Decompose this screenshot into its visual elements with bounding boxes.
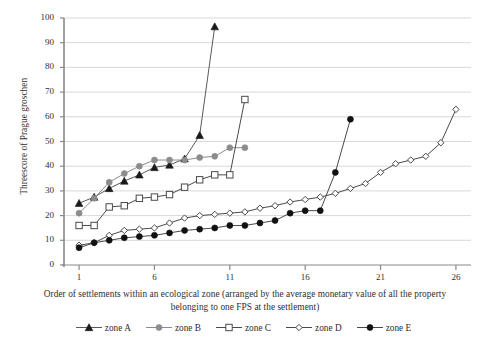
y-axis-tick-label: 100 bbox=[30, 12, 54, 22]
data-point-2 bbox=[196, 177, 202, 183]
data-point-2 bbox=[227, 172, 233, 178]
data-point-1 bbox=[212, 153, 218, 159]
data-point-4 bbox=[212, 225, 218, 231]
legend-label: zone A bbox=[105, 323, 131, 333]
legend-item-zone-a[interactable]: zone A bbox=[76, 322, 131, 333]
data-point-0 bbox=[196, 132, 204, 139]
x-axis-tick-label: 1 bbox=[67, 272, 91, 282]
data-point-4 bbox=[347, 116, 353, 122]
y-axis-tick-label: 50 bbox=[30, 136, 54, 146]
data-point-1 bbox=[227, 145, 233, 151]
series-line-1 bbox=[79, 148, 245, 213]
data-point-0 bbox=[136, 171, 144, 178]
y-axis-title: Threescore of Prague groschen bbox=[18, 26, 31, 246]
data-point-1 bbox=[76, 210, 82, 216]
data-point-1 bbox=[182, 157, 188, 163]
series-line-2 bbox=[79, 100, 245, 226]
data-point-3 bbox=[166, 220, 172, 226]
data-point-2 bbox=[212, 172, 218, 178]
data-point-4 bbox=[302, 208, 308, 214]
data-point-4 bbox=[287, 210, 293, 216]
data-point-2 bbox=[106, 204, 112, 210]
data-point-4 bbox=[332, 169, 338, 175]
data-point-0 bbox=[75, 199, 83, 206]
legend-label: zone B bbox=[175, 323, 201, 333]
x-axis-tick-label: 6 bbox=[142, 272, 166, 282]
data-point-2 bbox=[181, 184, 187, 190]
data-point-4 bbox=[167, 230, 173, 236]
data-point-1 bbox=[91, 195, 97, 201]
data-point-2 bbox=[151, 194, 157, 200]
data-point-3 bbox=[453, 106, 459, 112]
data-point-4 bbox=[136, 234, 142, 240]
data-point-4 bbox=[151, 232, 157, 238]
legend-item-zone-d[interactable]: zone D bbox=[286, 322, 342, 333]
data-point-1 bbox=[242, 145, 248, 151]
x-axis-tick-label: 11 bbox=[218, 272, 242, 282]
legend-label: zone E bbox=[386, 323, 412, 333]
data-point-3 bbox=[408, 157, 414, 163]
data-point-2 bbox=[76, 222, 82, 228]
legend-marker-open-diamond-icon bbox=[286, 322, 312, 333]
data-point-3 bbox=[242, 209, 248, 215]
data-point-1 bbox=[167, 157, 173, 163]
data-point-4 bbox=[106, 237, 112, 243]
legend-item-zone-b[interactable]: zone B bbox=[146, 322, 201, 333]
data-point-3 bbox=[121, 227, 127, 233]
data-point-1 bbox=[136, 163, 142, 169]
data-point-4 bbox=[182, 227, 188, 233]
data-point-4 bbox=[242, 222, 248, 228]
x-axis-tick-label: 26 bbox=[444, 272, 468, 282]
data-point-4 bbox=[317, 208, 323, 214]
legend-label: zone D bbox=[315, 323, 342, 333]
data-point-3 bbox=[196, 212, 202, 218]
data-point-3 bbox=[302, 196, 308, 202]
x-axis-title: Order of settlements within an ecologica… bbox=[30, 288, 460, 313]
x-axis-tick-label: 21 bbox=[369, 272, 393, 282]
legend-marker-filled-circle-icon bbox=[146, 322, 172, 333]
data-point-3 bbox=[287, 199, 293, 205]
data-point-0 bbox=[120, 177, 128, 184]
data-point-2 bbox=[136, 195, 142, 201]
y-axis-tick-label: 80 bbox=[30, 61, 54, 71]
data-point-3 bbox=[272, 203, 278, 209]
legend-marker-filled-circle-icon bbox=[357, 322, 383, 333]
series-line-3 bbox=[79, 109, 456, 245]
data-point-3 bbox=[317, 194, 323, 200]
x-axis-tick-label: 16 bbox=[293, 272, 317, 282]
legend-item-zone-e[interactable]: zone E bbox=[357, 322, 412, 333]
legend-marker-filled-triangle-icon bbox=[76, 322, 102, 333]
y-axis-tick-label: 70 bbox=[30, 86, 54, 96]
y-axis-tick-label: 10 bbox=[30, 234, 54, 244]
data-point-1 bbox=[121, 171, 127, 177]
chart-legend: zone Azone Bzone Czone Dzone E bbox=[0, 322, 487, 333]
data-point-1 bbox=[156, 325, 162, 331]
y-axis-tick-label: 40 bbox=[30, 160, 54, 170]
data-point-4 bbox=[76, 245, 82, 251]
chart-container: Threescore of Prague groschen Order of s… bbox=[0, 0, 487, 344]
data-point-3 bbox=[151, 225, 157, 231]
data-point-2 bbox=[242, 96, 248, 102]
data-point-4 bbox=[91, 240, 97, 246]
data-point-3 bbox=[212, 211, 218, 217]
data-point-2 bbox=[226, 324, 232, 330]
data-point-2 bbox=[91, 222, 97, 228]
y-axis-tick-label: 90 bbox=[30, 37, 54, 47]
data-point-2 bbox=[121, 203, 127, 209]
legend-label: zone C bbox=[245, 323, 271, 333]
series-line-0 bbox=[79, 27, 215, 204]
data-point-4 bbox=[197, 226, 203, 232]
data-point-1 bbox=[151, 157, 157, 163]
data-point-0 bbox=[211, 23, 219, 30]
y-axis-tick-label: 30 bbox=[30, 185, 54, 195]
data-point-1 bbox=[197, 155, 203, 161]
data-point-3 bbox=[257, 205, 263, 211]
data-point-3 bbox=[296, 324, 302, 330]
y-axis-tick-label: 0 bbox=[30, 259, 54, 269]
data-point-2 bbox=[166, 191, 172, 197]
legend-item-zone-c[interactable]: zone C bbox=[216, 322, 271, 333]
data-point-4 bbox=[227, 222, 233, 228]
data-point-3 bbox=[136, 226, 142, 232]
data-point-4 bbox=[367, 325, 373, 331]
y-axis-tick-label: 60 bbox=[30, 111, 54, 121]
